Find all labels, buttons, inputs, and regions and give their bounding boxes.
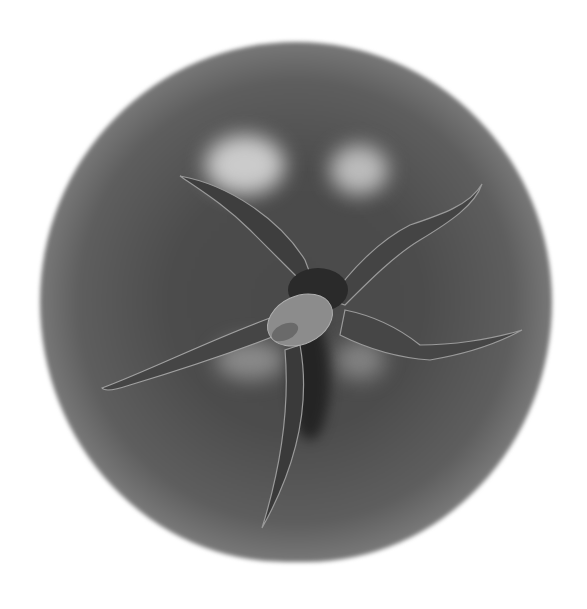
photo-stage [0, 0, 587, 609]
sepal-bottom [262, 345, 304, 528]
sepal-top-right [330, 184, 482, 305]
sepal-right [340, 310, 522, 360]
sepals-illustration [0, 0, 587, 609]
sepal-left [102, 318, 290, 390]
